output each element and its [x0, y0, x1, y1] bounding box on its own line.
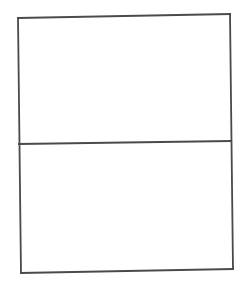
top-panel	[18, 14, 231, 144]
diagram-canvas	[0, 0, 248, 285]
bottom-panel	[19, 141, 233, 273]
